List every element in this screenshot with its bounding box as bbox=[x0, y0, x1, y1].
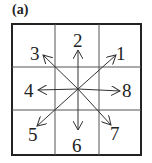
direction-label-3: 3 bbox=[30, 43, 40, 64]
arrow-7 bbox=[78, 89, 111, 125]
arrow-3 bbox=[43, 55, 78, 89]
arrow-4 bbox=[38, 89, 78, 90]
direction-label-5: 5 bbox=[28, 124, 38, 145]
direction-label-8: 8 bbox=[122, 80, 132, 101]
arrow-1 bbox=[78, 55, 116, 89]
direction-label-4: 4 bbox=[24, 80, 34, 101]
arrow-5 bbox=[37, 89, 78, 126]
arrows bbox=[37, 50, 120, 130]
direction-label-6: 6 bbox=[72, 135, 82, 156]
direction-label-1: 1 bbox=[116, 43, 126, 64]
direction-label-2: 2 bbox=[73, 30, 83, 51]
direction-grid-diagram: 1 2 3 4 5 6 7 8 bbox=[0, 0, 152, 163]
direction-label-7: 7 bbox=[110, 123, 120, 144]
